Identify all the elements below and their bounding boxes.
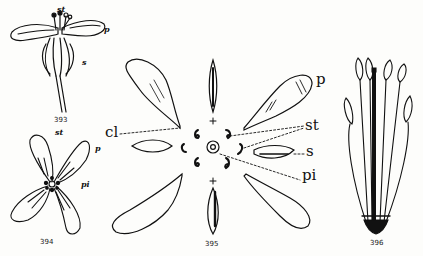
figure-393: st p s 393: [0, 0, 110, 130]
label-stamens: st: [305, 118, 319, 133]
label-sepal: s: [306, 144, 314, 159]
label-sepal: s: [82, 58, 87, 66]
figure-number: 394: [40, 239, 53, 246]
label-stamens: st: [57, 5, 65, 13]
figure-number: 396: [370, 240, 383, 247]
stamens-pistil-drawing: [330, 50, 423, 256]
label-petal: p: [316, 72, 326, 87]
label-pistil: pi: [81, 180, 90, 188]
figure-394: st p pi 394: [0, 128, 110, 256]
label-pistil: pi: [302, 168, 316, 183]
flower-side-view-drawing: [0, 0, 110, 130]
figure-number: 395: [205, 241, 218, 248]
figure-number: 393: [54, 117, 67, 124]
flower-top-view-drawing: [0, 128, 110, 256]
figure-395: cl p st s pi 395: [100, 50, 340, 256]
floral-diagram-drawing: [100, 50, 340, 256]
label-petal: p: [104, 25, 110, 33]
label-claw: cl: [105, 125, 118, 140]
figure-396: 396: [330, 50, 423, 256]
